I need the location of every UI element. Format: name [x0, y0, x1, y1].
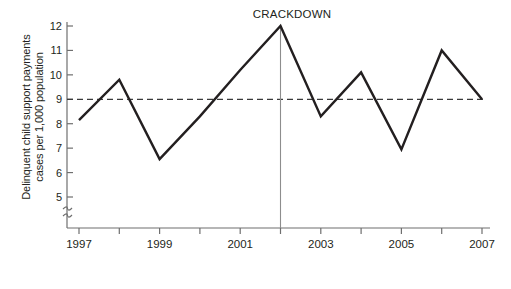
x-tick-label: 2001 [227, 238, 253, 250]
x-tick-label: 2003 [308, 238, 334, 250]
x-tick-label: 2007 [469, 238, 495, 250]
y-tick-label: 10 [50, 69, 62, 81]
y-axis-ticks: 56789101112 [50, 20, 73, 203]
axis-lines [67, 22, 490, 228]
y-tick-label: 11 [51, 44, 62, 56]
x-tick-label: 1997 [66, 238, 92, 250]
chart-figure: Delinquent child support payments cases … [0, 0, 511, 289]
y-tick-label: 6 [56, 167, 62, 179]
y-tick-label: 12 [50, 20, 62, 32]
x-axis-ticks: 199719992001200320052007 [66, 228, 495, 250]
line-chart-plot: 56789101112 199719992001200320052007 [0, 0, 511, 289]
y-tick-label: 7 [56, 142, 62, 154]
y-tick-label: 8 [56, 118, 62, 130]
x-tick-label: 2005 [389, 238, 415, 250]
y-tick-label: 5 [56, 191, 62, 203]
y-tick-label: 9 [56, 93, 62, 105]
x-tick-label: 1999 [147, 238, 173, 250]
